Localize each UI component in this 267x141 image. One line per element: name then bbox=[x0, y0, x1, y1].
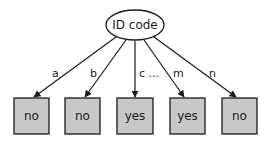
edge-n-line bbox=[154, 37, 236, 97]
leaf-label: yes bbox=[125, 109, 146, 123]
leaf-label: no bbox=[232, 109, 247, 123]
leaf-label: no bbox=[24, 109, 39, 123]
root-node: ID code bbox=[106, 10, 164, 40]
root-label: ID code bbox=[112, 18, 158, 32]
leaf-node-4: yes bbox=[170, 98, 205, 134]
edge-label-c: c ... bbox=[139, 67, 159, 80]
edges bbox=[34, 37, 236, 97]
edge-label-m: m bbox=[173, 67, 184, 80]
edge-label-n: n bbox=[209, 67, 216, 80]
edge-label-a: a bbox=[52, 67, 59, 80]
edge-label-b: b bbox=[90, 67, 97, 80]
leaf-label: no bbox=[75, 109, 90, 123]
leaf-node-2: no bbox=[65, 98, 100, 134]
leaf-node-5: no bbox=[222, 98, 257, 134]
edge-a-line bbox=[34, 37, 116, 97]
leaf-node-1: no bbox=[14, 98, 49, 134]
leaf-label: yes bbox=[177, 109, 198, 123]
decision-tree-diagram: a b c ... m n ID code no no yes yes no bbox=[0, 0, 267, 141]
leaf-node-3: yes bbox=[117, 98, 153, 134]
